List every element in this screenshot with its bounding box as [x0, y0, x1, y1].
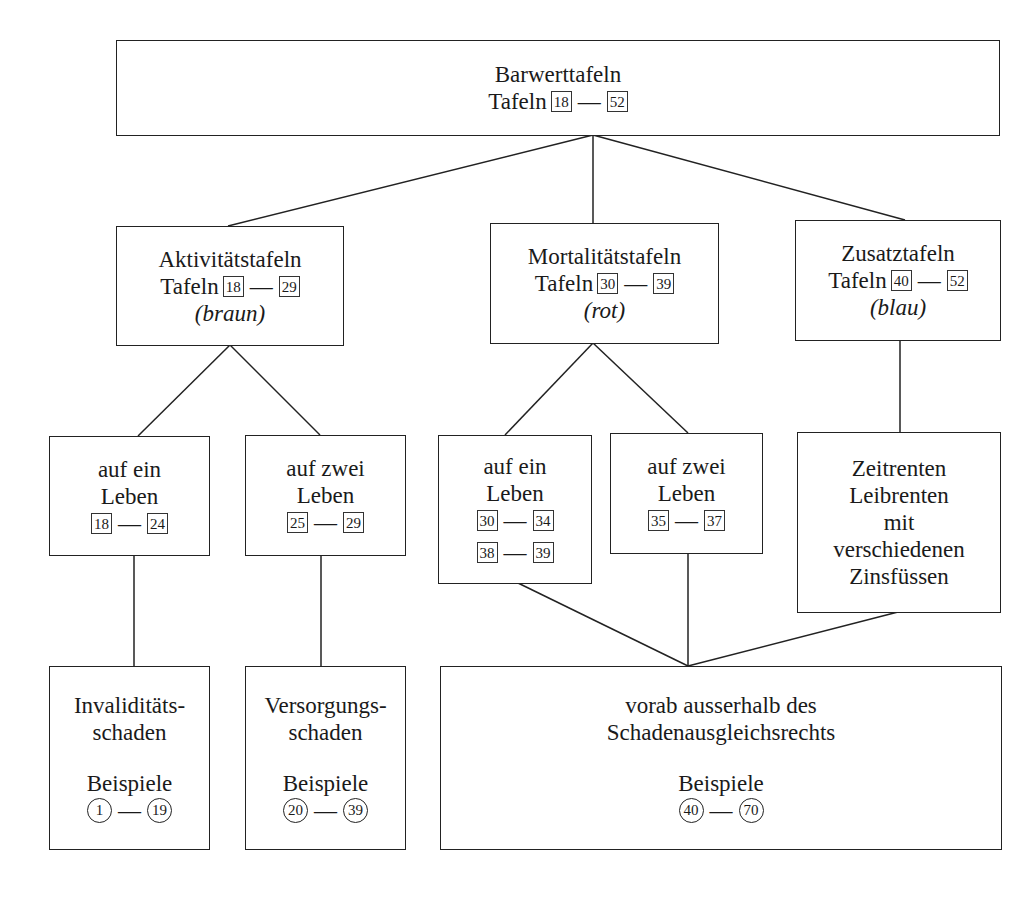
- node-text: Leben: [486, 480, 543, 507]
- node-zeitrenten-leibrenten: Zeitrenten Leibrenten mit verschiedenen …: [797, 432, 1001, 613]
- node-text: Leben: [658, 480, 715, 507]
- node-text: auf ein: [483, 453, 546, 480]
- table-number-box: 39: [653, 273, 674, 294]
- table-number-box: 18: [223, 276, 244, 297]
- example-number-circle: 70: [739, 798, 764, 823]
- node-text: mit: [884, 509, 915, 536]
- example-number-circle: 19: [147, 798, 172, 823]
- node-range: 18 — 24: [91, 510, 168, 537]
- node-title: Aktivitätstafeln: [158, 246, 301, 273]
- table-number-box: 24: [147, 513, 168, 534]
- table-number-box: 52: [607, 91, 628, 112]
- node-text: Zeitrenten: [852, 455, 947, 482]
- node-range: Tafeln 18 — 29: [160, 273, 299, 300]
- table-number-box: 25: [287, 512, 308, 533]
- node-versorgungsschaden: Versorgungs- schaden Beispiele 20 — 39: [245, 666, 406, 850]
- table-number-box: 34: [533, 510, 554, 531]
- node-text: Zinsfüssen: [849, 563, 949, 590]
- examples-label: Beispiele: [87, 770, 173, 797]
- node-schadenausgleichsrecht: vorab ausserhalb des Schadenausgleichsre…: [440, 666, 1002, 850]
- range-dash: —: [710, 797, 733, 824]
- example-number-circle: 1: [87, 798, 112, 823]
- node-text: verschiedenen: [833, 536, 965, 563]
- node-text: auf zwei: [286, 455, 365, 482]
- node-aktiv-zwei-leben: auf zwei Leben 25 — 29: [245, 435, 406, 556]
- table-number-box: 39: [533, 542, 554, 563]
- node-invaliditaetsschaden: Invaliditäts- schaden Beispiele 1 — 19: [49, 666, 210, 850]
- table-number-box: 18: [91, 513, 112, 534]
- range-label: Tafeln: [828, 267, 886, 294]
- range-dash: —: [118, 510, 141, 537]
- range-dash: —: [624, 270, 647, 297]
- node-range: Tafeln 40 — 52: [828, 267, 967, 294]
- node-text: Versorgungs-: [264, 692, 386, 719]
- node-mort-zwei-leben: auf zwei Leben 35 — 37: [610, 433, 763, 554]
- range-dash: —: [118, 797, 141, 824]
- range-dash: —: [314, 509, 337, 536]
- range-dash: —: [578, 88, 601, 115]
- node-mort-ein-leben: auf ein Leben 30 — 34 38 — 39: [438, 435, 592, 584]
- range-dash: —: [504, 539, 527, 566]
- node-text: Schadenausgleichsrechts: [607, 719, 836, 746]
- node-text: auf ein: [98, 456, 161, 483]
- node-text: schaden: [92, 719, 166, 746]
- range-dash: —: [504, 507, 527, 534]
- example-number-circle: 20: [283, 798, 308, 823]
- examples-label: Beispiele: [283, 770, 369, 797]
- table-number-box: 52: [947, 270, 968, 291]
- node-range: 35 — 37: [648, 507, 725, 534]
- root-range: Tafeln 18 — 52: [488, 88, 627, 115]
- node-range: Tafeln 30 — 39: [535, 270, 674, 297]
- example-number-circle: 40: [679, 798, 704, 823]
- examples-range: 1 — 19: [87, 797, 172, 824]
- root-range-label: Tafeln: [488, 88, 546, 115]
- table-number-box: 30: [477, 510, 498, 531]
- node-zusatztafeln: Zusatztafeln Tafeln 40 — 52 (blau): [795, 220, 1001, 341]
- table-number-box: 18: [551, 91, 572, 112]
- table-number-box: 35: [648, 510, 669, 531]
- table-number-box: 30: [597, 273, 618, 294]
- table-number-box: 37: [704, 510, 725, 531]
- range-label: Tafeln: [160, 273, 218, 300]
- examples-label: Beispiele: [678, 770, 764, 797]
- color-note: (braun): [195, 300, 265, 327]
- node-aktivitaetstafeln: Aktivitätstafeln Tafeln 18 — 29 (braun): [116, 226, 344, 346]
- range-dash: —: [314, 797, 337, 824]
- table-number-box: 29: [343, 512, 364, 533]
- range-dash: —: [675, 507, 698, 534]
- node-text: vorab ausserhalb des: [625, 692, 817, 719]
- color-note: (blau): [870, 294, 926, 321]
- node-range: 30 — 34: [477, 507, 554, 534]
- examples-range: 40 — 70: [679, 797, 764, 824]
- color-note: (rot): [584, 297, 625, 324]
- node-text: Leibrenten: [849, 482, 949, 509]
- node-title: Mortalitätstafeln: [528, 243, 681, 270]
- root-title: Barwerttafeln: [495, 61, 621, 88]
- root-node-barwerttafeln: Barwerttafeln Tafeln 18 — 52: [116, 40, 1000, 136]
- node-text: schaden: [288, 719, 362, 746]
- node-text: Leben: [297, 482, 354, 509]
- node-aktiv-ein-leben: auf ein Leben 18 — 24: [49, 436, 210, 556]
- node-range: 25 — 29: [287, 509, 364, 536]
- table-number-box: 29: [279, 276, 300, 297]
- range-label: Tafeln: [535, 270, 593, 297]
- table-number-box: 40: [891, 270, 912, 291]
- range-dash: —: [918, 267, 941, 294]
- examples-range: 20 — 39: [283, 797, 368, 824]
- node-mortalitaetstafeln: Mortalitätstafeln Tafeln 30 — 39 (rot): [490, 223, 719, 344]
- node-range: 38 — 39: [477, 539, 554, 566]
- node-text: Invaliditäts-: [74, 692, 185, 719]
- example-number-circle: 39: [343, 798, 368, 823]
- node-text: Leben: [101, 483, 158, 510]
- table-number-box: 38: [477, 542, 498, 563]
- node-text: auf zwei: [647, 453, 726, 480]
- node-title: Zusatztafeln: [841, 240, 955, 267]
- range-dash: —: [250, 273, 273, 300]
